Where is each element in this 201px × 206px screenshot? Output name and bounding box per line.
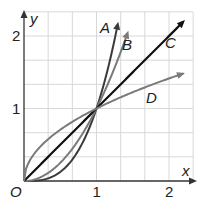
y-tick-label: 1	[12, 100, 20, 117]
x-tick-label: 2	[165, 183, 173, 200]
y-axis-label: y	[29, 10, 39, 27]
curve-d-arrow-icon	[176, 72, 185, 79]
graph: yxO1212ABCD	[0, 0, 201, 206]
curve-label-d: D	[146, 89, 157, 106]
x-axis-label: x	[181, 162, 190, 179]
curve-label-a: A	[99, 19, 110, 36]
curve-label-b: B	[122, 36, 132, 53]
y-tick-label: 2	[12, 27, 20, 44]
y-axis-arrow-icon	[21, 10, 28, 18]
curve-label-c: C	[165, 34, 176, 51]
curve-a-arrow-icon	[113, 22, 120, 31]
origin-label: O	[10, 183, 22, 200]
x-tick-label: 1	[93, 183, 101, 200]
